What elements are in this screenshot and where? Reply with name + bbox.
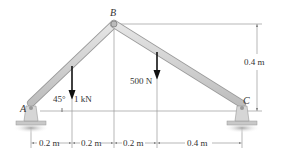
label-load-1kN: 1 kN	[74, 94, 92, 104]
label-dim-h3: 0.2 m	[123, 138, 144, 148]
label-dim-h4: 0.4 m	[187, 138, 208, 148]
label-dim-h1: 0.2 m	[39, 138, 60, 148]
label-dim-h2: 0.2 m	[81, 138, 102, 148]
pin-support-A	[13, 106, 49, 133]
label-point-B: B	[110, 7, 116, 18]
member-BC	[114, 24, 242, 104]
label-point-A: A	[19, 103, 27, 114]
truss-diagram: A B C 45° 1 kN 500 N 0.4 m 0.2 m 0.2 m 0…	[0, 0, 281, 162]
pin-B	[111, 21, 117, 27]
label-dim-vertical: 0.4 m	[244, 57, 265, 67]
label-angle: 45°	[53, 94, 66, 104]
label-point-C: C	[243, 95, 250, 106]
pin-support-C	[224, 106, 260, 133]
label-load-500N: 500 N	[130, 76, 153, 86]
